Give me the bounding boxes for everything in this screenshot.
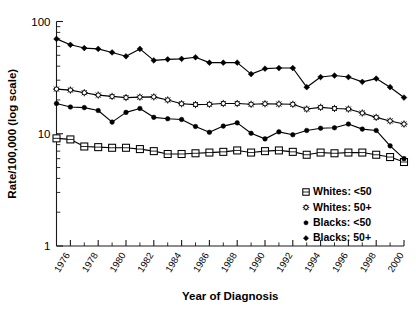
legend-label: Whites: 50+ <box>313 201 372 213</box>
data-point-open-star <box>150 93 157 100</box>
data-point-open-star <box>345 105 352 112</box>
data-point-open-square <box>234 147 241 154</box>
data-point-filled-circle <box>179 117 184 122</box>
data-point-open-square <box>109 144 116 151</box>
data-point-filled-circle <box>304 221 308 225</box>
x-tick-label: 1982 <box>135 250 156 274</box>
data-point-filled-diamond <box>81 45 87 51</box>
data-point-open-star <box>53 85 60 92</box>
data-point-filled-circle <box>68 105 73 110</box>
data-point-filled-circle <box>193 124 198 129</box>
data-point-open-square <box>387 154 394 161</box>
data-point-open-star <box>122 94 129 101</box>
data-point-filled-circle <box>346 122 351 127</box>
data-point-filled-circle <box>82 105 87 110</box>
data-point-open-square <box>123 144 130 151</box>
data-point-open-square <box>95 144 102 151</box>
y-tick-label: 1 <box>44 240 50 252</box>
y-axis-title: Rate/100,000 (log scale) <box>6 69 18 199</box>
data-point-open-star <box>109 93 116 100</box>
x-axis-tick-labels: 1976197819801982198419861988199019921994… <box>52 250 406 274</box>
data-point-filled-circle <box>304 128 309 133</box>
data-point-open-star <box>317 104 324 111</box>
data-point-filled-diamond <box>109 50 115 56</box>
data-point-filled-diamond <box>359 79 365 85</box>
legend-label: Blacks: <50 <box>313 216 371 228</box>
data-point-filled-diamond <box>95 46 101 52</box>
data-point-open-star <box>275 100 282 107</box>
series-0 <box>53 135 408 166</box>
data-point-filled-diamond <box>332 73 338 79</box>
data-point-open-star <box>289 101 296 108</box>
data-point-filled-diamond <box>303 236 308 241</box>
legend-label: Blacks: 50+ <box>313 231 371 243</box>
data-point-filled-circle <box>360 127 365 132</box>
x-tick-label: 1992 <box>274 250 295 274</box>
y-axis-tick-labels: 100101 <box>31 16 50 253</box>
data-point-open-square <box>303 151 310 158</box>
data-point-filled-circle <box>318 126 323 131</box>
x-tick-label: 1984 <box>163 250 184 274</box>
legend-item[interactable]: Whites: <50 <box>303 185 372 197</box>
data-point-open-star <box>136 94 143 101</box>
data-point-filled-diamond <box>179 56 185 62</box>
y-axis-ticks <box>57 22 64 247</box>
x-axis-title: Year of Diagnosis <box>182 290 279 302</box>
data-point-filled-circle <box>235 121 240 126</box>
data-point-open-square <box>164 151 171 158</box>
data-point-filled-diamond <box>54 36 60 42</box>
data-point-filled-diamond <box>207 60 213 66</box>
data-point-open-square <box>81 143 88 150</box>
data-point-filled-circle <box>277 130 282 135</box>
x-tick-label: 1980 <box>107 250 128 274</box>
data-point-open-square <box>289 148 296 155</box>
data-point-open-star <box>303 105 310 112</box>
data-point-open-star <box>331 105 338 112</box>
data-point-open-square <box>345 149 352 156</box>
data-point-filled-circle <box>332 125 337 130</box>
data-point-open-star <box>400 120 407 127</box>
x-tick-label: 1996 <box>330 250 351 274</box>
data-point-open-square <box>206 149 213 156</box>
data-point-open-square <box>150 148 157 155</box>
data-point-open-star <box>206 101 213 108</box>
data-series-group <box>53 36 408 166</box>
data-point-filled-circle <box>291 132 296 137</box>
data-point-filled-diamond <box>220 60 226 66</box>
data-point-filled-circle <box>388 144 393 149</box>
x-tick-label: 1994 <box>302 250 323 274</box>
data-point-open-star <box>359 109 366 116</box>
data-point-filled-circle <box>263 137 268 142</box>
data-point-open-star <box>248 101 255 108</box>
data-point-open-square <box>373 151 380 158</box>
data-point-open-star <box>373 114 380 121</box>
legend-item[interactable]: Whites: 50+ <box>303 201 372 213</box>
data-point-filled-diamond <box>262 66 268 72</box>
data-point-open-star <box>178 100 185 107</box>
data-point-open-star <box>67 86 74 93</box>
data-point-filled-circle <box>249 131 254 136</box>
y-tick-label: 10 <box>38 128 51 140</box>
data-point-open-star <box>95 91 102 98</box>
x-tick-label: 1990 <box>246 250 267 274</box>
data-point-open-star <box>261 100 268 107</box>
data-point-open-star <box>387 117 394 124</box>
data-point-filled-circle <box>207 130 212 135</box>
x-tick-label: 2000 <box>385 250 406 274</box>
data-point-filled-circle <box>152 115 157 120</box>
data-point-filled-diamond <box>373 76 379 82</box>
chart-svg: 100101 197619781980198219841986198819901… <box>0 0 416 317</box>
data-point-open-square <box>275 147 282 154</box>
data-point-open-square <box>192 150 199 157</box>
data-point-filled-diamond <box>68 42 74 48</box>
data-point-filled-diamond <box>193 54 199 60</box>
data-point-filled-circle <box>374 128 379 133</box>
data-point-open-square <box>262 148 269 155</box>
data-point-open-square <box>317 149 324 156</box>
x-tick-label: 1998 <box>357 250 378 274</box>
data-point-open-square <box>53 135 60 142</box>
legend-item[interactable]: Blacks: 50+ <box>303 231 371 243</box>
data-point-open-square <box>178 151 185 158</box>
data-point-filled-diamond <box>165 56 171 62</box>
legend-item[interactable]: Blacks: <50 <box>304 216 371 228</box>
